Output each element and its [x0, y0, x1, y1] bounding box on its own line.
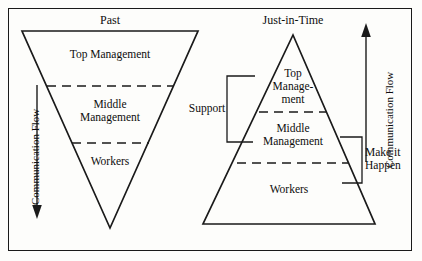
diagram-canvas: Past Just-in-Time Top Management Middle … [0, 0, 422, 261]
jit-band-workers: Workers [249, 183, 329, 196]
flow-right-arrowhead [361, 23, 371, 37]
jit-band-top: Top Manage- ment [263, 67, 323, 106]
diagram-shapes [0, 0, 422, 261]
flow-left-label: Communication Flow [29, 109, 41, 205]
past-band-middle: Middle Management [65, 98, 155, 124]
jit-title: Just-in-Time [243, 14, 343, 27]
jit-band-middle: Middle Management [243, 122, 343, 148]
past-band-top: Top Management [55, 48, 165, 61]
flow-right-label: Communication Flow [383, 72, 395, 168]
make-it-happen-bracket [340, 137, 362, 183]
past-band-workers: Workers [70, 155, 150, 168]
past-title: Past [60, 14, 160, 27]
support-label: Support [181, 102, 233, 115]
flow-left-arrowhead [32, 205, 42, 219]
